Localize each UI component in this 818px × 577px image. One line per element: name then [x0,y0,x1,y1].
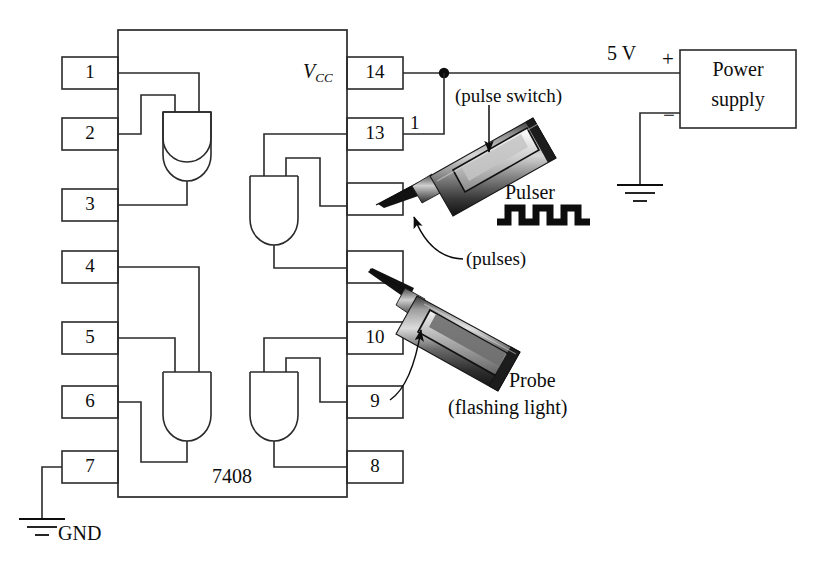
pulses-label: (pulses) [466,248,526,270]
vcc-letter: V [303,60,315,82]
circuit-schematic [0,0,818,577]
pin13-wire-label: 1 [410,112,420,134]
voltage-label: 5 V [607,42,636,65]
supply-ground-symbol [617,185,663,201]
pulser-waveform-icon [497,208,590,222]
gnd-wire [42,467,62,519]
pulses-leader [414,217,463,259]
probe-sub-label: (flashing light) [448,396,567,419]
pulser-label: Pulser [505,181,555,204]
probe-label: Probe [509,369,556,392]
pin-label-13: 13 [347,118,403,148]
pin-label-5: 5 [62,322,118,352]
gnd-label: GND [58,522,101,545]
pin-label-3: 3 [62,189,118,219]
diagram-canvas: 1 2 3 4 5 6 7 14 13 10 9 8 VCC 7408 1 5 … [0,0,818,577]
pulse-switch-label: (pulse switch) [455,85,562,107]
pin-label-14: 14 [347,57,403,87]
pin-label-2: 2 [62,118,118,148]
gate-upper-right [250,134,347,268]
gate-lower-right [250,338,347,467]
vcc-label: VCC [303,60,333,86]
pin-label-6: 6 [62,386,118,416]
pin-label-1: 1 [62,57,118,87]
vcc-subscript: CC [315,70,332,85]
gate-lower-left [118,267,211,462]
pin-label-7: 7 [62,451,118,481]
power-supply-line2: supply [680,88,796,111]
ic-outline [118,30,347,497]
pin-label-4: 4 [62,251,118,281]
power-supply-line1: Power [680,58,796,81]
plus-terminal-label: + [662,47,674,72]
pin-label-8: 8 [347,451,403,481]
minus-terminal-label: − [663,103,675,128]
pin-label-10: 10 [347,322,403,352]
gate-upper-left [118,73,211,205]
pin-label-9: 9 [347,386,403,416]
ic-part-number: 7408 [212,465,252,488]
